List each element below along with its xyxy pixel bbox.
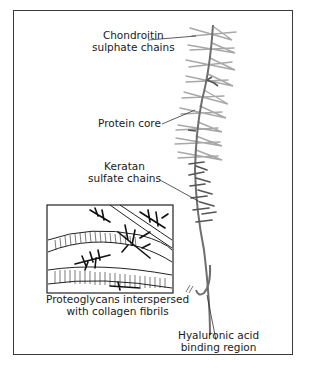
inset-collagen-image — [47, 205, 173, 293]
label-line-1: Keratan — [88, 160, 161, 172]
label-line-1: Hyaluronic acid — [178, 329, 259, 341]
label-line-1: Chondroitin — [92, 29, 175, 41]
label-chondroitin-sulphate-chains: Chondroitin sulphate chains — [92, 29, 175, 53]
label-protein-core: Protein core — [98, 117, 161, 129]
label-line-2: binding region — [178, 341, 259, 353]
label-line-2: sulfate chains — [88, 172, 161, 184]
chondroitin-sulphate-chains — [175, 27, 236, 160]
label-line-1: Protein core — [98, 117, 161, 129]
label-hyaluronic-acid-binding-region: Hyaluronic acid binding region — [178, 329, 259, 353]
label-keratan-sulfate-chains: Keratan sulfate chains — [88, 160, 161, 184]
label-inset-caption: Proteoglycans interspersed with collagen… — [46, 293, 189, 317]
keratan-sulfate-chains — [189, 162, 216, 222]
label-line-2: sulphate chains — [92, 41, 175, 53]
label-line-1: Proteoglycans interspersed — [46, 293, 189, 305]
label-line-2: with collagen fibrils — [46, 305, 189, 317]
